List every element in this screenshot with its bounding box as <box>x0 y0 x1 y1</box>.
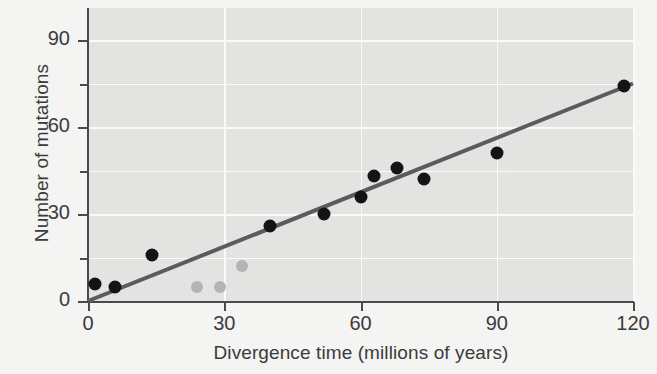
x-tick-label: 30 <box>194 312 254 335</box>
y-tick-minor <box>80 84 88 86</box>
x-tick-major <box>361 302 363 311</box>
y-tick-major <box>78 214 88 216</box>
plot-area <box>88 8 634 302</box>
x-axis-title: Divergence time (millions of years) <box>88 342 634 364</box>
x-tick-label: 60 <box>331 312 391 335</box>
y-tick-major <box>78 40 88 42</box>
gridline-vertical <box>224 8 226 302</box>
x-tick-major <box>497 302 499 311</box>
gridline-vertical <box>497 8 499 302</box>
y-tick-label: 0 <box>30 288 70 311</box>
x-tick-label: 120 <box>603 312 657 335</box>
x-tick-label: 0 <box>58 312 118 335</box>
y-tick-label: 60 <box>30 114 70 137</box>
gridline-vertical <box>633 8 635 302</box>
y-tick-minor <box>80 258 88 260</box>
y-tick-major <box>78 301 88 303</box>
y-tick-major <box>78 127 88 129</box>
y-tick-minor <box>80 171 88 173</box>
x-tick-label: 90 <box>467 312 527 335</box>
y-tick-label: 30 <box>30 201 70 224</box>
x-tick-major <box>633 302 635 311</box>
x-tick-major <box>88 302 90 311</box>
y-tick-label: 90 <box>30 27 70 50</box>
scatter-plot-figure: Number of mutations 03060900306090120 Di… <box>0 0 657 374</box>
x-tick-major <box>224 302 226 311</box>
gridline-vertical <box>361 8 363 302</box>
